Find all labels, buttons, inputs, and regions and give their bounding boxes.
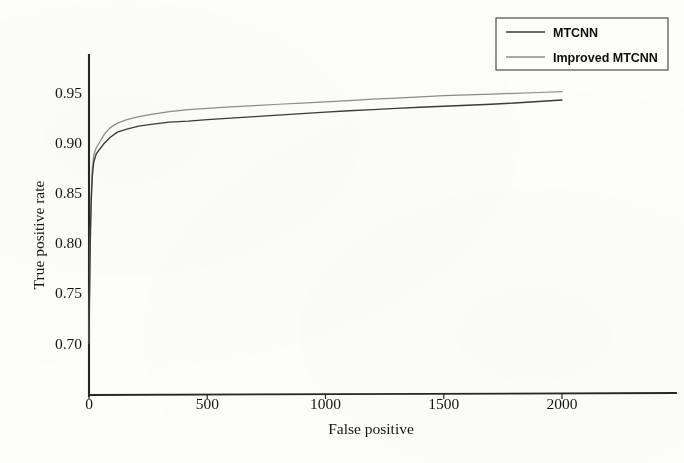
x-tick-label: 2000: [547, 395, 578, 412]
x-tick-label: 500: [196, 395, 220, 412]
x-tick-label: 1500: [428, 395, 459, 412]
legend-label-improved-mtcnn: Improved MTCNN: [553, 51, 658, 65]
y-tick-label: 0.90: [55, 134, 82, 151]
y-tick-label: 0.95: [55, 84, 82, 101]
y-tick-label: 0.85: [55, 184, 82, 201]
y-axis-title: True positive rate: [30, 180, 47, 289]
y-tick-label: 0.75: [55, 284, 82, 301]
roc-chart-svg: 0.950.900.850.800.750.70 050010001500200…: [0, 0, 684, 463]
x-tick-label: 1000: [310, 395, 341, 412]
y-tick-label: 0.80: [55, 234, 82, 251]
y-tick-label: 0.70: [55, 335, 82, 352]
legend[interactable]: MTCNN Improved MTCNN: [496, 18, 668, 70]
x-tick-label: 0: [85, 395, 93, 412]
legend-label-mtcnn: MTCNN: [553, 26, 598, 40]
x-axis-title: False positive: [328, 420, 414, 437]
roc-chart-figure: 0.950.900.850.800.750.70 050010001500200…: [0, 0, 684, 463]
